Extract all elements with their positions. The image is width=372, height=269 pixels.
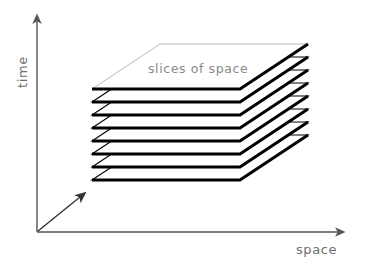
spacetime-slices-diagram: time space: [0, 0, 372, 269]
time-axis-label: time: [15, 56, 30, 88]
slices-of-space-label: slices of space: [148, 61, 248, 76]
space-axis-label: space: [296, 242, 337, 257]
